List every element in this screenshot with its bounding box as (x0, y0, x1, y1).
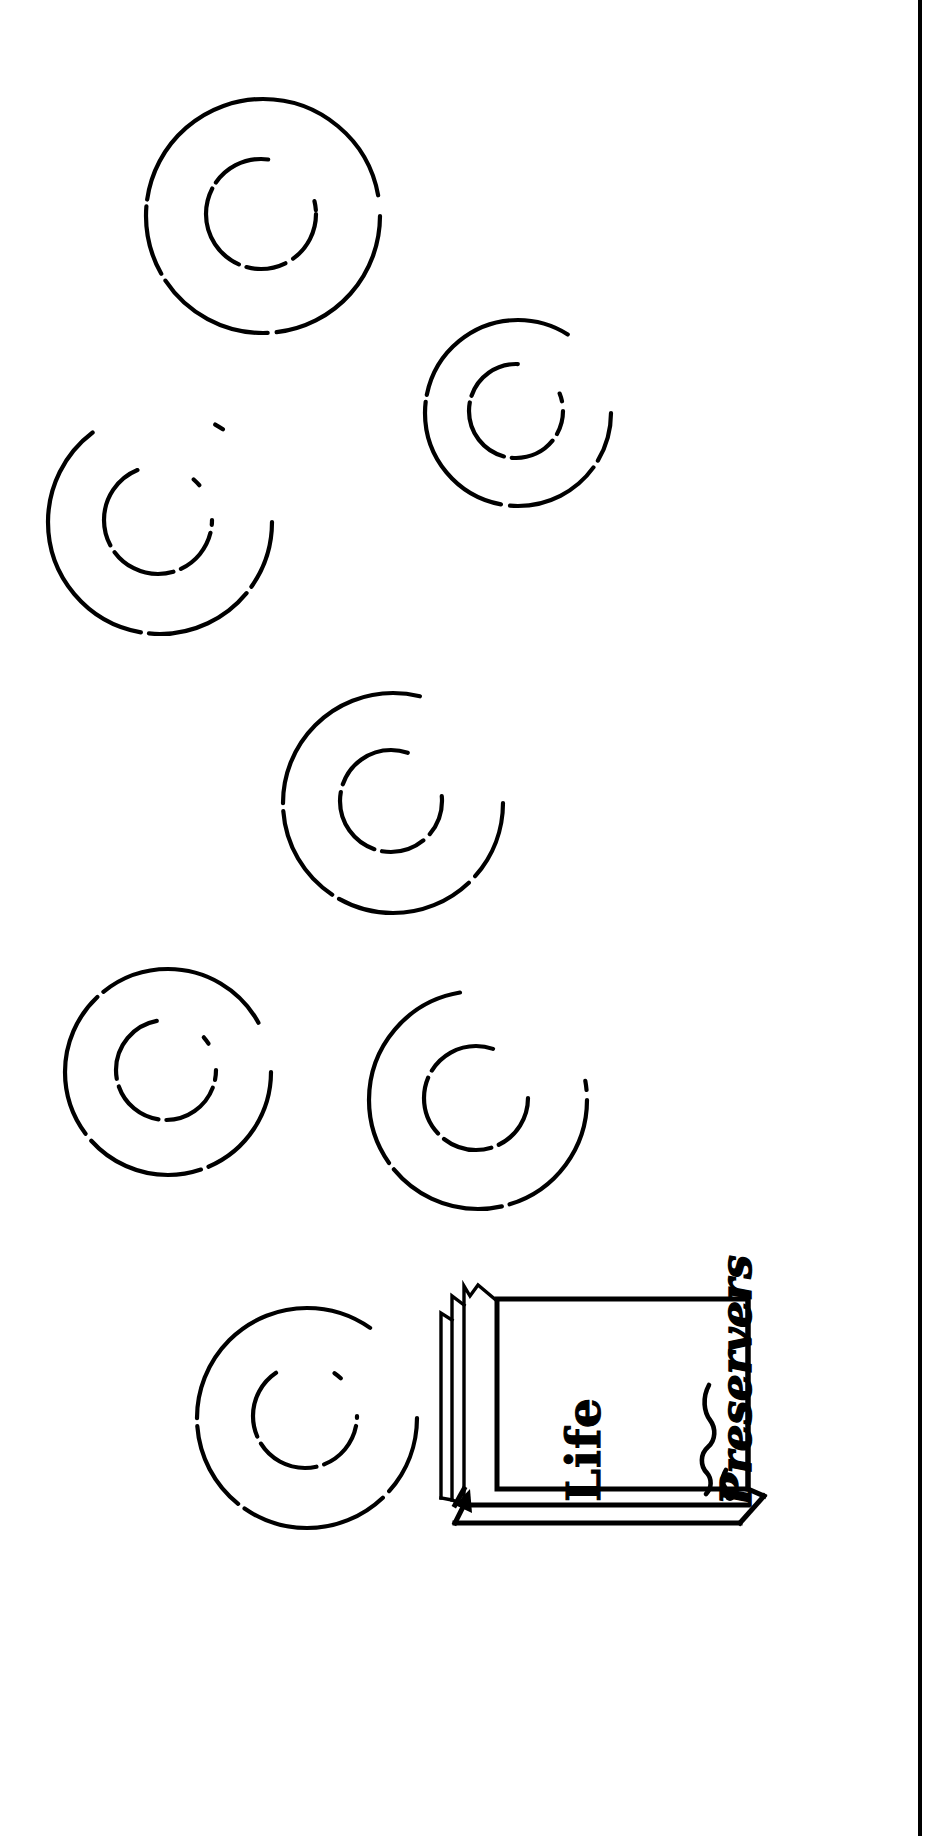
life-preserver-ring-1 (146, 99, 380, 333)
line-art-svg: .ring-outer { fill: none; stroke: #000; … (0, 0, 925, 1836)
life-preserver-ring-5 (65, 969, 271, 1175)
artboard: .ring-outer { fill: none; stroke: #000; … (0, 0, 925, 1836)
life-preserver-ring-3 (48, 410, 272, 634)
life-preserver-ring-7 (197, 1308, 417, 1528)
carton-label-preservers: Preservers (712, 1255, 761, 1505)
illustration-page: .ring-outer { fill: none; stroke: #000; … (0, 0, 925, 1836)
carton-front-face (497, 1299, 748, 1489)
life-preserver-ring-6 (369, 991, 587, 1209)
carton-label-life: Life (556, 1397, 611, 1502)
life-preserver-ring-4 (283, 693, 503, 913)
life-preserver-ring-2 (425, 320, 611, 506)
page-right-rule (918, 0, 922, 1836)
carton-flaps (441, 1285, 497, 1505)
